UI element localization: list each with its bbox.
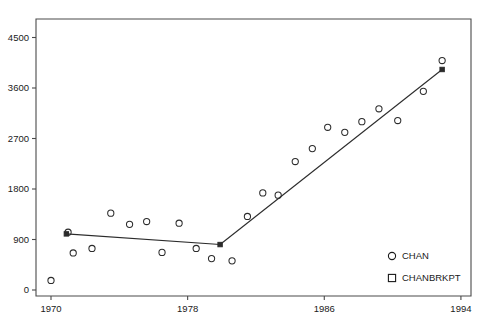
legend-label: CHANBRKPT: [402, 272, 461, 283]
y-axis-ticks: 09001800270036004500: [8, 32, 36, 296]
y-tick-label: 0: [24, 284, 29, 295]
legend-marker-chan: [388, 252, 395, 259]
data-point-chan: [244, 213, 250, 219]
data-point-chan: [376, 106, 382, 112]
data-point-chan: [359, 119, 365, 125]
data-point-chanbrkpt: [218, 242, 222, 246]
data-point-chan: [159, 249, 165, 255]
data-point-chan: [420, 88, 426, 94]
breakpoint-markers: [64, 67, 444, 246]
data-point-chan: [292, 158, 298, 164]
regression-segment: [220, 69, 442, 244]
data-point-chan: [342, 129, 348, 135]
data-point-chan: [126, 221, 132, 227]
x-tick-label: 1970: [40, 303, 61, 314]
legend-label: CHAN: [402, 250, 429, 261]
data-point-chan: [108, 210, 114, 216]
data-point-chan: [144, 218, 150, 224]
data-point-chanbrkpt: [440, 67, 444, 71]
data-point-chan: [275, 192, 281, 198]
data-point-chan: [309, 146, 315, 152]
data-point-chan: [89, 245, 95, 251]
data-point-chan: [439, 57, 445, 63]
data-point-chan: [260, 190, 266, 196]
y-tick-label: 2700: [8, 133, 29, 144]
data-point-chan: [208, 255, 214, 261]
scatter-plot: 09001800270036004500 1970197819861994 CH…: [0, 0, 490, 336]
data-point-chan: [395, 117, 401, 123]
legend-marker-chanbrkpt: [388, 274, 395, 281]
data-point-chan: [193, 245, 199, 251]
regression-lines: [66, 69, 442, 244]
data-point-chan: [325, 124, 331, 130]
y-tick-label: 3600: [8, 82, 29, 93]
data-point-chanbrkpt: [64, 232, 68, 236]
data-point-chan: [48, 277, 54, 283]
x-tick-label: 1978: [177, 303, 198, 314]
y-tick-label: 900: [13, 234, 29, 245]
x-tick-label: 1986: [314, 303, 335, 314]
data-point-markers: [48, 57, 445, 283]
x-axis-ticks: 1970197819861994: [40, 296, 471, 314]
data-point-chan: [70, 250, 76, 256]
y-tick-label: 4500: [8, 32, 29, 43]
chart-container: 09001800270036004500 1970197819861994 CH…: [0, 0, 490, 336]
data-point-chan: [229, 258, 235, 264]
y-tick-label: 1800: [8, 183, 29, 194]
x-tick-label: 1994: [450, 303, 471, 314]
data-point-chan: [176, 220, 182, 226]
legend: CHANCHANBRKPT: [388, 250, 460, 283]
regression-segment: [66, 234, 220, 245]
